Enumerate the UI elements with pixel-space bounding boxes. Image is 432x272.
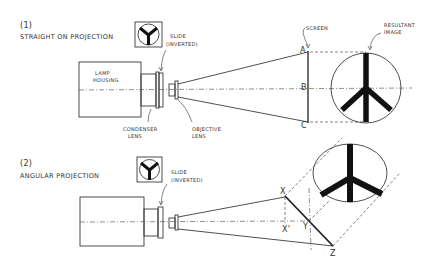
point-x: X [280,187,286,196]
diagram1-title: STRAIGHT ON PROJECTION [20,33,113,41]
point-b: B [301,83,307,92]
objective-label-1: OBJECTIVE [192,126,221,132]
slide-icon-2 [137,157,162,182]
slide-label-2: (INVERTED) [166,41,198,47]
diagram-angular-projection: (2) ANGULAR PROJECTION SLIDE (INVERTED) … [20,138,400,258]
objective-lens-2 [169,218,175,228]
point-a: A [300,46,306,55]
slide-plate [159,73,163,107]
diagram-straight-projection: (1) STRAIGHT ON PROJECTION SLIDE (INVERT… [20,21,416,139]
projection-diagram: (1) STRAIGHT ON PROJECTION SLIDE (INVERT… [0,0,432,272]
condenser-lens [141,74,156,106]
objective-label-2: LENS [192,133,206,139]
condenser-label-1: CONDENSER [123,126,158,132]
objective-lens [169,84,175,96]
slide2-label-1: SLIDE [171,169,187,175]
point-y: Y [302,222,308,231]
slide-icon [135,22,162,47]
diagram1-number: (1) [20,21,32,30]
slide-plate-2 [158,207,163,238]
lamp-label-1: LAMP [95,70,110,76]
lamp-label-2: HOUSING [93,77,119,83]
distorted-resultant-image [313,144,387,202]
slide2-label-2: (INVERTED) [171,177,203,183]
condenser-label-2: LENS [128,133,142,139]
condenser-lens-2 [144,209,158,236]
point-x-prime: X' [282,225,290,234]
point-z: Z [330,249,336,258]
result-label-2: IMAGE [384,29,402,35]
diagram2-number: (2) [20,159,32,168]
screen-label: SCREEN [306,25,328,31]
result-label-1: RESULTANT [384,22,416,28]
diagram2-title: ANGULAR PROJECTION [20,172,99,180]
point-c: C [301,121,307,130]
slide-label-1: SLIDE [170,33,186,39]
